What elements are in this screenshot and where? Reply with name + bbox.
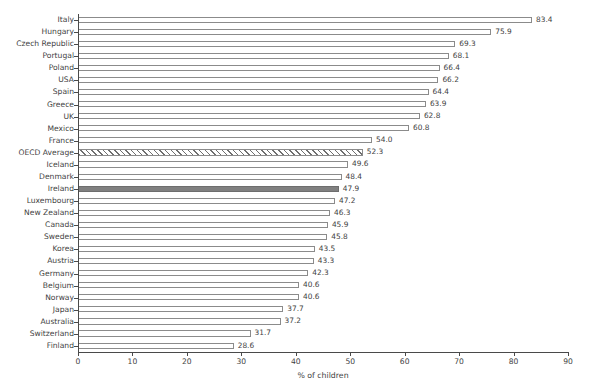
chart-title-cropped [0,0,589,9]
x-tick [514,352,515,356]
bar-czech-republic [78,41,455,47]
bar-row: 31.7 [78,328,568,340]
bar-value-label: 48.4 [346,172,362,182]
x-tick [187,352,188,356]
bar-value-label: 66.4 [444,63,460,73]
bar-value-label: 47.9 [343,184,359,194]
bar-japan [78,306,283,312]
bar-portugal [78,53,449,59]
bar-australia [78,318,281,324]
bar-row: 37.7 [78,304,568,316]
bar-austria [78,258,314,264]
bar-korea [78,246,315,252]
bar-row: 37.2 [78,316,568,328]
bar-belgium [78,282,299,288]
bar-row: 40.6 [78,280,568,292]
bar-row: 45.9 [78,219,568,231]
x-tick [568,352,569,356]
bar-value-label: 40.6 [303,292,319,302]
x-axis-line [78,352,568,353]
bar-germany [78,270,308,276]
x-tick [296,352,297,356]
bar-new-zealand [78,210,330,216]
bar-italy [78,17,532,23]
bar-row: 42.3 [78,268,568,280]
x-tick-label: 70 [454,357,464,367]
bar-row: 64.4 [78,86,568,98]
x-tick-label: 50 [345,357,355,367]
bar-value-label: 43.3 [318,256,334,266]
bar-usa [78,77,438,83]
bar-row: 40.6 [78,292,568,304]
bar-value-label: 31.7 [255,328,271,338]
x-tick-label: 10 [128,357,138,367]
bar-row: 52.3 [78,147,568,159]
x-tick [459,352,460,356]
bar-switzerland [78,330,251,336]
bar-value-label: 83.4 [536,15,552,25]
bar-chart: ItalyHungaryCzech RepublicPortugalPoland… [0,0,589,388]
bar-value-label: 42.3 [312,268,328,278]
bar-mexico [78,125,409,131]
bar-row: 66.2 [78,74,568,86]
bar-norway [78,294,299,300]
bar-value-label: 69.3 [459,39,475,49]
x-tick [132,352,133,356]
bar-value-label: 43.5 [319,244,335,254]
bar-row: 68.1 [78,50,568,62]
bar-spain [78,89,429,95]
bar-value-label: 75.9 [495,27,511,37]
bar-value-label: 40.6 [303,280,319,290]
bar-value-label: 60.8 [413,123,429,133]
bar-value-label: 45.8 [331,232,347,242]
x-tick-label: 90 [563,357,573,367]
bar-ireland [78,186,339,192]
x-tick [241,352,242,356]
bar-finland [78,343,234,349]
bar-row: 62.8 [78,111,568,123]
x-tick-label: 40 [291,357,301,367]
bar-row: 45.8 [78,231,568,243]
x-tick [78,352,79,356]
bar-row: 47.9 [78,183,568,195]
plot-area: 83.475.969.368.166.466.264.463.962.860.8… [78,14,568,352]
bar-value-label: 46.3 [334,208,350,218]
bar-value-label: 64.4 [433,87,449,97]
x-tick-label: 30 [236,357,246,367]
bar-row: 60.8 [78,123,568,135]
y-axis-ticks [0,14,78,353]
bar-value-label: 49.6 [352,159,368,169]
bar-luxembourg [78,198,335,204]
bar-row: 47.2 [78,195,568,207]
bar-value-label: 68.1 [453,51,469,61]
bar-value-label: 37.7 [287,304,303,314]
bar-value-label: 52.3 [367,147,383,157]
bar-value-label: 62.8 [424,111,440,121]
x-tick [350,352,351,356]
bar-value-label: 28.6 [238,341,254,351]
bar-canada [78,222,328,228]
bar-hungary [78,29,491,35]
bar-row: 49.6 [78,159,568,171]
bar-oecd-average [78,149,363,155]
x-axis-title: % of children [78,371,568,380]
bar-sweden [78,234,327,240]
y-axis-line [78,14,79,352]
bar-poland [78,65,440,71]
x-tick-label: 80 [509,357,519,367]
bar-row: 43.5 [78,243,568,255]
bar-value-label: 45.9 [332,220,348,230]
x-tick-label: 20 [182,357,192,367]
bar-iceland [78,161,348,167]
bar-value-label: 66.2 [442,75,458,85]
bar-row: 28.6 [78,340,568,352]
bar-value-label: 54.0 [376,135,392,145]
bar-row: 75.9 [78,26,568,38]
x-tick-label: 0 [76,357,81,367]
bar-value-label: 37.2 [285,316,301,326]
bar-row: 46.3 [78,207,568,219]
bar-row: 63.9 [78,99,568,111]
bar-row: 54.0 [78,135,568,147]
bar-value-label: 47.2 [339,196,355,206]
bar-row: 69.3 [78,38,568,50]
